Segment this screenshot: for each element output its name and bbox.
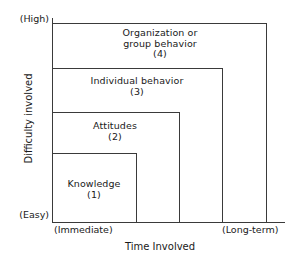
- level-1-box-top-edge: [52, 153, 137, 154]
- y-axis-high-label: (High): [5, 13, 49, 24]
- level-3-label-line1: Individual behavior: [91, 75, 184, 86]
- level-2-box-top-edge: [52, 112, 180, 113]
- level-2-caption: Attitudes (2): [56, 121, 174, 142]
- y-axis-easy-label: (Easy): [5, 209, 49, 220]
- level-4-number: (4): [60, 49, 260, 60]
- level-1-label-line1: Knowledge: [67, 178, 120, 189]
- y-axis-title: Difficulty involved: [23, 39, 34, 199]
- level-3-box-right-edge: [222, 68, 223, 222]
- level-3-number: (3): [58, 87, 216, 98]
- x-axis-immediate-label: (Immediate): [54, 224, 113, 235]
- level-4-box-right-edge: [266, 23, 267, 222]
- level-1-number: (1): [54, 190, 134, 201]
- level-2-box-right-edge: [179, 112, 180, 222]
- x-axis-long-term-label: (Long-term): [222, 224, 278, 235]
- level-1-box-right-edge: [136, 153, 137, 222]
- level-2-label-line1: Attitudes: [93, 120, 137, 131]
- level-1-caption: Knowledge (1): [54, 179, 134, 200]
- level-3-box-top-edge: [52, 68, 223, 69]
- level-4-label-line1: Organization or: [123, 27, 198, 38]
- level-2-number: (2): [56, 132, 174, 143]
- x-axis-title: Time Involved: [98, 241, 222, 252]
- level-4-label-line2: group behavior: [123, 38, 197, 49]
- level-4-box-top-edge: [52, 23, 267, 24]
- x-axis-line: [52, 222, 285, 223]
- level-3-caption: Individual behavior (3): [58, 76, 216, 97]
- difficulty-vs-time-diagram: Organization or group behavior (4) Indiv…: [0, 0, 296, 260]
- level-4-caption: Organization or group behavior (4): [60, 28, 260, 60]
